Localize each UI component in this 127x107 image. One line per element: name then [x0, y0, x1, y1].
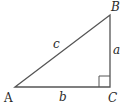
vertex-label-c: C	[108, 91, 117, 105]
right-angle-marker	[99, 76, 110, 87]
side-label-b: b	[59, 90, 67, 104]
triangle-outline	[15, 15, 110, 87]
vertex-label-a: A	[3, 91, 13, 105]
side-label-c: c	[53, 37, 60, 51]
right-triangle-diagram: B A C a b c	[0, 0, 127, 107]
vertex-label-b: B	[110, 0, 120, 14]
side-label-a: a	[113, 43, 120, 57]
